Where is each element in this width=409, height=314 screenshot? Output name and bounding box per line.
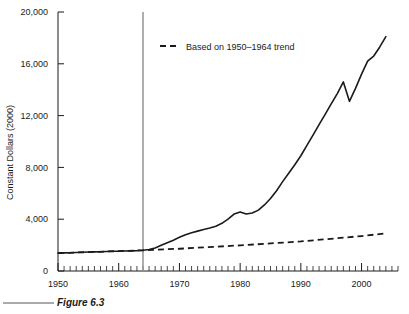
x-tick-label-1960: 1960 bbox=[109, 279, 129, 289]
y-tick-marks bbox=[58, 12, 64, 271]
x-tick-label-1970: 1970 bbox=[169, 279, 189, 289]
figure-caption: Figure 6.3 bbox=[57, 297, 105, 308]
legend: Based on 1950–1964 trend bbox=[160, 42, 295, 52]
x-tick-label-1980: 1980 bbox=[230, 279, 250, 289]
y-tick-label-20000: 20,000 bbox=[20, 7, 48, 17]
x-tick-label-2000: 2000 bbox=[352, 279, 372, 289]
x-tick-marks-minor bbox=[64, 266, 398, 271]
y-tick-label-0: 0 bbox=[43, 266, 48, 276]
y-tick-label-16000: 16,000 bbox=[20, 59, 48, 69]
x-tick-labels: 195019601970198019902000 bbox=[48, 279, 372, 289]
x-tick-label-1990: 1990 bbox=[291, 279, 311, 289]
series-group bbox=[58, 37, 386, 254]
legend-item-label: Based on 1950–1964 trend bbox=[186, 42, 295, 52]
actual-line-series bbox=[58, 37, 386, 254]
y-axis-title: Constant Dollars (2000) bbox=[5, 105, 15, 200]
figure-container: 04,0008,00012,00016,00020,000 1950196019… bbox=[0, 0, 409, 314]
y-tick-label-4000: 4,000 bbox=[25, 214, 48, 224]
figure-caption-group: Figure 6.3 bbox=[3, 297, 105, 308]
line-chart: 04,0008,00012,00016,00020,000 1950196019… bbox=[0, 0, 409, 314]
trend-line-series bbox=[58, 233, 386, 253]
x-tick-label-1950: 1950 bbox=[48, 279, 68, 289]
y-tick-labels: 04,0008,00012,00016,00020,000 bbox=[20, 7, 48, 276]
y-tick-label-8000: 8,000 bbox=[25, 163, 48, 173]
y-tick-label-12000: 12,000 bbox=[20, 111, 48, 121]
